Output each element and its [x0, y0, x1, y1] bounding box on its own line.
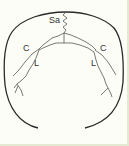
- skull-diagram: [0, 0, 129, 146]
- coronal-suture-lower: [39, 43, 94, 52]
- lambdoid-suture-right: [94, 50, 116, 97]
- label-sagittal: Sa: [49, 16, 60, 25]
- label-lambdoid-left: L: [34, 59, 39, 68]
- sagittal-suture: [63, 12, 67, 33]
- lambdoid-suture-left: [13, 49, 39, 96]
- skull-outline: [4, 12, 123, 128]
- label-coronal-left: C: [23, 44, 30, 53]
- label-coronal-right: C: [100, 44, 107, 53]
- label-lambdoid-right: L: [91, 59, 96, 68]
